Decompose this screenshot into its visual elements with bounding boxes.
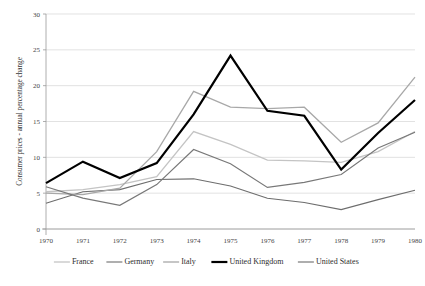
gridlines <box>46 14 415 229</box>
x-tick-label: 1978 <box>334 237 349 245</box>
legend-item-united-kingdom[interactable]: United Kingdom <box>211 257 284 266</box>
y-tick-label: 15 <box>33 118 41 126</box>
x-axis-ticklabels: 1970197119721973197419751976197719781979… <box>39 237 423 245</box>
x-tick-label: 1971 <box>76 237 91 245</box>
legend-label-united-kingdom: United Kingdom <box>229 257 284 266</box>
legend-label-italy: Italy <box>181 257 196 266</box>
x-tick-label: 1977 <box>297 237 312 245</box>
legend-label-france: France <box>72 257 94 266</box>
series-line-germany <box>46 179 415 210</box>
y-axis-label: Consumer prices - annual percentage chan… <box>16 57 24 186</box>
legend-item-germany[interactable]: Germany <box>106 257 154 266</box>
legend-item-italy[interactable]: Italy <box>163 257 196 266</box>
chart-legend: FranceGermanyItalyUnited KingdomUnited S… <box>54 257 359 266</box>
chart-canvas: 051015202530 197019711972197319741975197… <box>0 0 425 286</box>
x-tick-label: 1980 <box>408 237 423 245</box>
x-tick-label: 1974 <box>187 237 202 245</box>
x-tick-label: 1976 <box>260 237 275 245</box>
y-axis <box>42 14 415 235</box>
x-tick-label: 1970 <box>39 237 54 245</box>
y-tick-label: 0 <box>37 226 41 234</box>
legend-label-united-states: United States <box>316 257 359 266</box>
legend-label-germany: Germany <box>124 257 154 266</box>
x-tick-label: 1973 <box>150 237 165 245</box>
y-tick-label: 25 <box>33 46 41 54</box>
y-tick-label: 20 <box>33 82 41 90</box>
series-lines <box>46 56 415 210</box>
y-axis-title: Consumer prices - annual percentage chan… <box>16 57 24 186</box>
legend-item-united-states[interactable]: United States <box>298 257 359 266</box>
y-tick-label: 30 <box>33 11 41 19</box>
x-tick-label: 1972 <box>113 237 128 245</box>
y-tick-label: 5 <box>37 190 41 198</box>
series-line-italy <box>46 77 415 195</box>
line-chart: 051015202530 197019711972197319741975197… <box>0 0 425 286</box>
x-tick-label: 1979 <box>371 237 386 245</box>
legend-item-france[interactable]: France <box>54 257 94 266</box>
x-tick-label: 1975 <box>224 237 239 245</box>
y-tick-label: 10 <box>33 154 41 162</box>
y-axis-ticklabels: 051015202530 <box>33 11 46 234</box>
